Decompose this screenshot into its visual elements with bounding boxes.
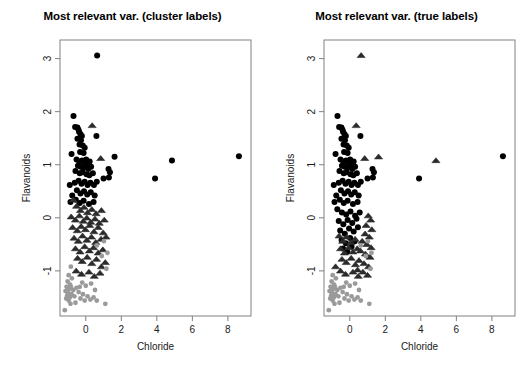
data-point-circle bbox=[345, 292, 350, 297]
data-point-circle bbox=[112, 154, 118, 160]
data-point-circle bbox=[334, 276, 339, 281]
figure-root: Most relevant var. (cluster labels) 0246… bbox=[0, 0, 529, 366]
data-point-triangle bbox=[355, 257, 363, 262]
data-point-circle bbox=[336, 294, 341, 299]
data-point-circle bbox=[89, 281, 94, 286]
data-point-circle bbox=[62, 308, 67, 313]
data-point-circle bbox=[68, 301, 73, 306]
data-point-circle bbox=[345, 150, 351, 156]
y-tick-label: 0 bbox=[43, 215, 54, 221]
x-tick-label: 8 bbox=[225, 324, 231, 335]
data-point-circle bbox=[500, 153, 506, 159]
data-point-circle bbox=[71, 113, 77, 119]
data-point-circle bbox=[73, 300, 78, 305]
data-point-triangle bbox=[338, 256, 346, 261]
data-point-triangle bbox=[74, 255, 82, 260]
data-point-triangle bbox=[71, 246, 79, 251]
data-point-circle bbox=[340, 290, 345, 295]
data-point-triangle bbox=[81, 244, 89, 249]
data-point-circle bbox=[101, 176, 107, 182]
data-point-circle bbox=[169, 157, 175, 163]
data-point-circle bbox=[351, 229, 357, 235]
series-group-1-true-labels bbox=[331, 113, 506, 255]
y-tick-label: 3 bbox=[43, 55, 54, 61]
data-point-circle bbox=[365, 239, 370, 244]
data-point-circle bbox=[357, 133, 363, 139]
y-axis-title-true-labels: Flavanoids bbox=[285, 154, 296, 202]
x-tick-label: 0 bbox=[347, 324, 353, 335]
data-point-circle bbox=[370, 174, 376, 180]
data-point-circle bbox=[352, 164, 358, 170]
data-point-circle bbox=[368, 266, 373, 271]
data-point-circle bbox=[82, 298, 87, 303]
data-point-circle bbox=[346, 298, 351, 303]
data-point-circle bbox=[369, 250, 374, 255]
data-point-circle bbox=[331, 199, 337, 205]
data-point-circle bbox=[344, 280, 349, 285]
x-tick-label: 6 bbox=[454, 324, 460, 335]
data-point-triangle bbox=[70, 235, 78, 240]
data-point-circle bbox=[83, 283, 88, 288]
data-point-triangle bbox=[92, 256, 100, 261]
data-point-circle bbox=[342, 296, 347, 301]
y-tick-label: 0 bbox=[307, 215, 318, 221]
data-point-circle bbox=[335, 113, 341, 119]
data-point-circle bbox=[358, 298, 363, 303]
data-point-triangle bbox=[100, 217, 108, 222]
data-point-circle bbox=[106, 174, 112, 180]
data-point-circle bbox=[353, 281, 358, 286]
data-point-circle bbox=[92, 193, 98, 199]
data-point-triangle bbox=[83, 215, 91, 220]
data-point-circle bbox=[90, 170, 96, 176]
data-point-circle bbox=[99, 254, 104, 259]
data-point-circle bbox=[94, 52, 100, 58]
data-point-circle bbox=[355, 224, 361, 230]
data-point-circle bbox=[94, 243, 99, 248]
data-point-triangle bbox=[97, 208, 105, 213]
data-point-circle bbox=[81, 198, 87, 204]
data-point-circle bbox=[101, 239, 106, 244]
data-point-circle bbox=[357, 210, 363, 216]
x-tick-label: 0 bbox=[83, 324, 89, 335]
plot-panel-true-labels: Most relevant var. (true labels) 02468-1… bbox=[264, 0, 529, 366]
data-point-triangle bbox=[79, 233, 87, 238]
y-tick-label: 2 bbox=[43, 108, 54, 114]
data-point-triangle bbox=[75, 213, 83, 218]
data-point-triangle bbox=[85, 269, 93, 274]
y-tick-label: 3 bbox=[307, 55, 318, 61]
data-point-circle bbox=[367, 301, 372, 306]
data-point-circle bbox=[68, 264, 73, 269]
data-point-circle bbox=[236, 153, 242, 159]
data-point-circle bbox=[355, 199, 361, 205]
data-point-triangle bbox=[87, 234, 95, 239]
data-point-circle bbox=[81, 150, 87, 156]
x-tick-label: 2 bbox=[119, 324, 125, 335]
data-point-triangle bbox=[88, 123, 96, 128]
scatter-plot-true-labels: 02468-10123ChlorideFlavanoids bbox=[264, 0, 529, 366]
series-group-1-cluster-labels bbox=[67, 52, 242, 207]
data-point-circle bbox=[416, 176, 422, 182]
data-point-circle bbox=[358, 179, 364, 185]
data-point-circle bbox=[341, 284, 346, 289]
data-point-triangle bbox=[97, 156, 105, 161]
data-point-triangle bbox=[72, 268, 80, 273]
data-point-circle bbox=[354, 216, 360, 222]
data-point-circle bbox=[349, 220, 355, 226]
data-point-circle bbox=[347, 283, 352, 288]
data-point-triangle bbox=[331, 264, 339, 269]
data-point-circle bbox=[354, 170, 360, 176]
data-point-triangle bbox=[357, 53, 365, 58]
x-axis-title-cluster-labels: Chloride bbox=[137, 341, 175, 352]
x-tick-label: 4 bbox=[418, 324, 424, 335]
data-point-triangle bbox=[69, 225, 77, 230]
data-point-triangle bbox=[101, 260, 109, 265]
data-point-circle bbox=[76, 290, 81, 295]
data-point-triangle bbox=[362, 222, 370, 227]
data-point-circle bbox=[103, 301, 108, 306]
y-tick-label: 2 bbox=[307, 108, 318, 114]
data-point-circle bbox=[88, 164, 94, 170]
data-point-circle bbox=[346, 145, 352, 151]
x-tick-label: 6 bbox=[190, 324, 196, 335]
data-point-triangle bbox=[67, 214, 75, 219]
plot-panel-cluster-labels: Most relevant var. (cluster labels) 0246… bbox=[0, 0, 265, 366]
